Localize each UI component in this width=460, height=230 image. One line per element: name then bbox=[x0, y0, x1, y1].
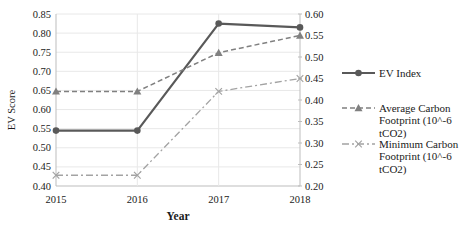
right-axis-tick-label: 0.25 bbox=[305, 159, 323, 170]
legend-label: EV Index bbox=[379, 67, 422, 79]
dual-axis-line-chart: 0.850.800.750.700.650.600.550.500.450.40… bbox=[0, 0, 460, 230]
ev-carbon-line-chart-figure: 0.850.800.750.700.650.600.550.500.450.40… bbox=[0, 0, 460, 230]
series-marker-triangle bbox=[133, 87, 141, 94]
left-axis-tick-label: 0.65 bbox=[33, 85, 51, 96]
legend-label: Footprint (10^-6 bbox=[379, 114, 452, 127]
series-line-triangle bbox=[56, 36, 300, 92]
left-axis-tick-label: 0.85 bbox=[33, 9, 51, 20]
right-axis-tick-label: 0.50 bbox=[305, 52, 323, 63]
left-axis-tick-label: 0.75 bbox=[33, 47, 51, 58]
series-marker-circle bbox=[134, 127, 141, 134]
x-axis-tick-label: 2018 bbox=[290, 194, 311, 205]
left-axis-tick-label: 0.55 bbox=[33, 123, 51, 134]
series-marker-circle bbox=[297, 24, 304, 31]
legend-label: Footprint (10^-6 bbox=[379, 150, 452, 163]
left-axis-tick-label: 0.70 bbox=[33, 66, 51, 77]
right-axis-tick-label: 0.35 bbox=[305, 116, 323, 127]
right-axis-tick-label: 0.40 bbox=[305, 95, 323, 106]
right-axis-tick-label: 0.30 bbox=[305, 138, 323, 149]
x-axis-tick-label: 2017 bbox=[208, 194, 229, 205]
right-axis-tick-label: 0.60 bbox=[305, 9, 323, 20]
left-axis-tick-label: 0.80 bbox=[33, 28, 51, 39]
series-line-x bbox=[56, 79, 300, 176]
right-axis-tick-label: 0.45 bbox=[305, 73, 323, 84]
left-axis-tick-label: 0.50 bbox=[33, 142, 51, 153]
series-marker-circle bbox=[215, 20, 222, 27]
right-axis-tick-label: 0.55 bbox=[305, 30, 323, 41]
x-axis-tick-label: 2015 bbox=[46, 194, 67, 205]
series-line-circle bbox=[56, 24, 300, 131]
series-marker-circle bbox=[53, 127, 60, 134]
x-axis-tick-label: 2016 bbox=[127, 194, 148, 205]
left-axis-tick-label: 0.60 bbox=[33, 104, 51, 115]
legend-marker-circle bbox=[355, 70, 362, 77]
left-axis-tick-label: 0.45 bbox=[33, 161, 51, 172]
legend-label: tCO2) bbox=[379, 163, 407, 176]
series-marker-triangle bbox=[296, 32, 304, 39]
right-axis-tick-label: 0.20 bbox=[305, 181, 323, 192]
legend-label: Average Carbon bbox=[379, 102, 451, 114]
legend-label: Minimum Carbon bbox=[379, 138, 459, 150]
x-axis-title: Year bbox=[167, 210, 190, 222]
y-axis-title: EV Score bbox=[6, 89, 17, 130]
left-axis-tick-label: 0.40 bbox=[33, 181, 51, 192]
